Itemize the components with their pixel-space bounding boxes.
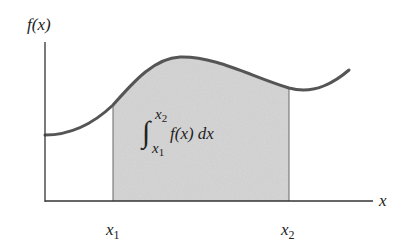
integral-sign: ∫ — [142, 117, 150, 147]
x2-tick-label: x2 — [281, 221, 295, 238]
integral-upper-limit: x2 — [155, 107, 167, 122]
upper-var: x — [155, 106, 162, 122]
x-axis-label: x — [379, 192, 387, 209]
x2-subscript: 2 — [289, 228, 295, 242]
integrand: f(x) dx — [170, 125, 214, 142]
lower-subscript: 1 — [159, 146, 165, 158]
lower-var: x — [152, 140, 159, 156]
x1-subscript: 1 — [114, 228, 120, 242]
upper-subscript: 2 — [162, 112, 168, 124]
x1-var: x — [106, 220, 114, 239]
x2-var: x — [281, 220, 289, 239]
y-axis-label: f(x) — [27, 16, 51, 33]
x1-tick-label: x1 — [106, 221, 120, 238]
integral-lower-limit: x1 — [152, 141, 164, 156]
